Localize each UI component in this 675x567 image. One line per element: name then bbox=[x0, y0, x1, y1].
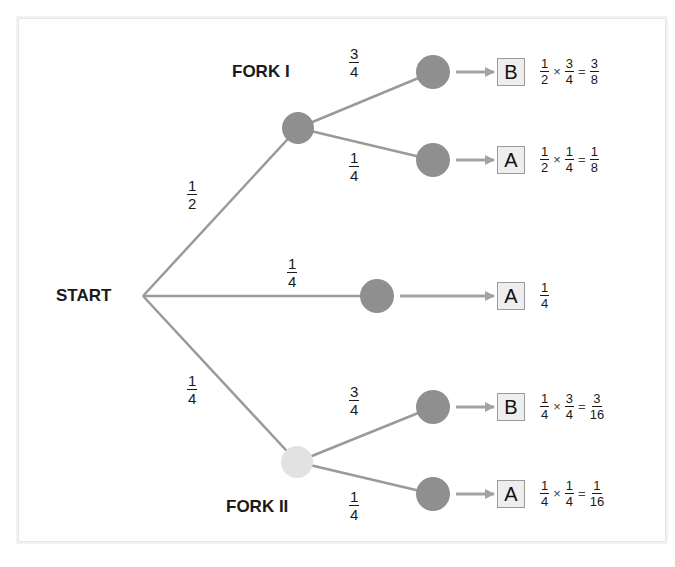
outcome-equation-3: 14 bbox=[540, 281, 549, 310]
outcome-equation-2: 12 × 14 = 18 bbox=[540, 145, 599, 174]
prob-start-middle: 14 bbox=[287, 256, 297, 289]
outcome-box-5: A bbox=[497, 480, 525, 508]
fork1-label: FORK I bbox=[232, 62, 290, 82]
leaf-node-4 bbox=[416, 390, 450, 424]
prob-start-fork1: 12 bbox=[187, 178, 197, 211]
outcome-box-2: A bbox=[497, 146, 525, 174]
outcome-equation-5: 14 × 14 = 116 bbox=[540, 479, 604, 508]
fork1-node bbox=[282, 112, 314, 144]
start-label: START bbox=[56, 286, 111, 306]
branch-start-fork1 bbox=[143, 128, 298, 296]
outcome-box-4: B bbox=[497, 393, 525, 421]
prob-fork2-upper: 34 bbox=[349, 384, 359, 417]
prob-fork1-upper: 34 bbox=[349, 46, 359, 79]
leaf-node-3 bbox=[360, 279, 394, 313]
outcome-equation-4: 14 × 34 = 316 bbox=[540, 392, 604, 421]
branch-fork2-upper bbox=[297, 407, 433, 462]
prob-fork2-lower: 14 bbox=[349, 489, 359, 522]
leaf-node-2 bbox=[416, 143, 450, 177]
leaf-node-1 bbox=[416, 55, 450, 89]
branch-fork1-upper bbox=[298, 72, 433, 128]
outcome-box-1: B bbox=[497, 58, 525, 86]
fork2-label: FORK II bbox=[226, 497, 288, 517]
fork2-node bbox=[281, 446, 313, 478]
leaf-node-5 bbox=[416, 477, 450, 511]
branch-fork1-lower bbox=[298, 128, 433, 160]
branch-start-fork2 bbox=[143, 296, 297, 462]
branch-fork2-lower bbox=[297, 462, 433, 494]
prob-fork1-lower: 14 bbox=[349, 150, 359, 183]
outcome-equation-1: 12 × 34 = 38 bbox=[540, 57, 599, 86]
outcome-box-3: A bbox=[497, 282, 525, 310]
prob-start-fork2: 14 bbox=[187, 373, 197, 406]
